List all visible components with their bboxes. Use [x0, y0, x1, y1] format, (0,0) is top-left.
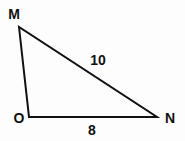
vertex-label-m: M [8, 7, 20, 21]
triangle-diagram: M O N 10 8 [0, 0, 185, 141]
side-length-mn: 10 [90, 53, 106, 67]
triangle-shape [0, 0, 185, 141]
vertex-label-n: N [165, 111, 175, 125]
side-length-on: 8 [88, 123, 96, 137]
vertex-label-o: O [14, 111, 25, 125]
